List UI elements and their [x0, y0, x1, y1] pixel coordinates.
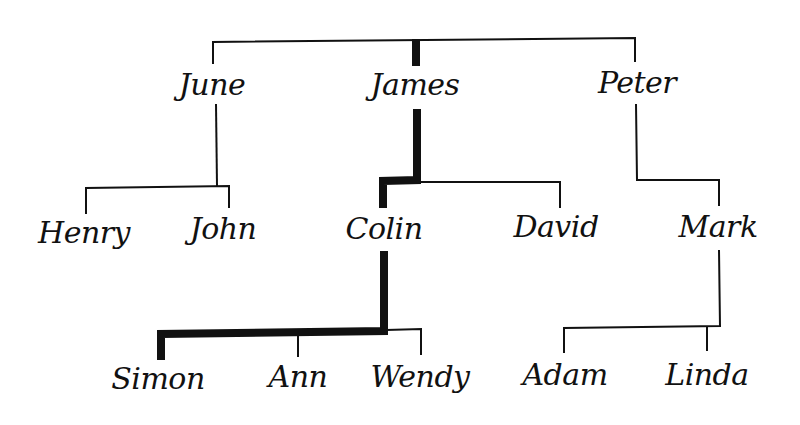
person-john: John	[190, 214, 257, 244]
person-mark: Mark	[678, 212, 757, 242]
person-ann: Ann	[269, 362, 328, 392]
person-wendy: Wendy	[370, 362, 469, 392]
highlight-james-to-colin	[383, 109, 417, 208]
person-peter: Peter	[598, 68, 676, 98]
person-david: David	[513, 212, 598, 242]
person-colin: Colin	[345, 214, 422, 244]
person-linda: Linda	[665, 360, 748, 390]
person-henry: Henry	[38, 218, 130, 248]
june-children-bar	[86, 186, 229, 214]
mark-children-bar	[564, 250, 720, 353]
top-sibling-bar	[213, 38, 635, 64]
wendy-connector	[386, 329, 421, 355]
person-adam: Adam	[522, 360, 607, 390]
highlight-colin-to-simon	[161, 251, 384, 360]
peter-to-mark-line	[636, 104, 719, 206]
family-tree-diagram: June James Peter Henry John Colin David …	[0, 0, 800, 425]
june-descent-line	[216, 104, 217, 186]
james-to-david-line	[418, 182, 560, 208]
person-james: James	[370, 70, 459, 100]
person-june: June	[179, 70, 245, 100]
person-simon: Simon	[111, 364, 204, 394]
